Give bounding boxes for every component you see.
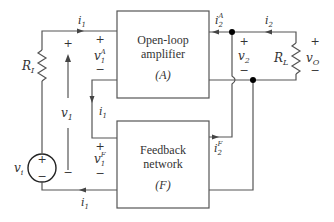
- i1-mid-label: i1: [99, 105, 107, 120]
- i1-top-arrow-icon: [77, 29, 84, 34]
- feedback-label-2: network: [143, 157, 182, 171]
- i1-bottom-label: i1: [81, 196, 89, 211]
- i1-bottom-arrow-icon: [79, 188, 86, 193]
- v2-label: v2: [238, 49, 250, 65]
- i1-mid-arrow-icon: [90, 96, 95, 103]
- v1A-minus: −: [95, 63, 104, 76]
- top-node: [229, 29, 235, 35]
- source-resistor: [38, 50, 46, 81]
- output-top-wire: [209, 32, 296, 43]
- feedback-return-wire: [209, 80, 253, 190]
- v2-minus: −: [239, 64, 248, 77]
- input-bottom-wire: [42, 182, 117, 190]
- source-plus: +: [37, 153, 46, 166]
- source-resistor-label: RI: [21, 59, 35, 75]
- i2F-arrow-icon: [212, 135, 219, 140]
- load-resistor-label: RL: [273, 51, 288, 67]
- i2A-label: iA2: [215, 12, 224, 29]
- i1-top-label: i1: [78, 14, 86, 29]
- vO-minus: −: [310, 64, 319, 77]
- v1-arrow-head-icon: [65, 54, 71, 62]
- amplifier-label-2: amplifier: [141, 47, 185, 61]
- vO-plus: +: [310, 35, 319, 48]
- feedback-sense-wire: [209, 32, 235, 137]
- feedback-label-1: Feedback: [140, 143, 186, 157]
- feedback-symbol: (F): [155, 178, 170, 192]
- i2-arrow-icon: [265, 30, 272, 35]
- inner-loop-wire: [92, 80, 117, 138]
- v2-plus: +: [239, 35, 248, 48]
- v1A-plus: +: [95, 33, 104, 46]
- v1F-minus: −: [95, 167, 104, 180]
- source-minus: −: [37, 170, 46, 183]
- load-resistor: [292, 43, 300, 74]
- v1-label: v1: [61, 106, 73, 122]
- v1-plus: +: [63, 37, 72, 50]
- source-label: vi: [14, 161, 24, 177]
- amplifier-label-1: Open-loop: [137, 33, 188, 47]
- i2A-arrow-icon: [212, 30, 219, 35]
- amplifier-symbol: (A): [155, 68, 170, 82]
- i2-label: i2: [265, 14, 274, 29]
- v1F-label: vF1: [94, 151, 107, 168]
- circuit-diagram: + − Open-loop amplifier (A) Feedback net…: [0, 0, 334, 222]
- bottom-node: [250, 77, 256, 83]
- v1-minus: −: [63, 166, 72, 179]
- i2F-label: iF2: [214, 140, 224, 157]
